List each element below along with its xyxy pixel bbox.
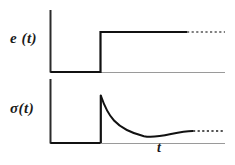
figure-container: e (t) σ(t) t (0, 0, 235, 165)
time-axis-label: t (157, 140, 161, 156)
strain-panel (50, 10, 225, 73)
stress-relaxation-curve (101, 96, 193, 137)
step-response-plot (0, 0, 235, 165)
stress-axis-label: σ(t) (10, 100, 34, 117)
stress-panel (50, 79, 225, 144)
strain-axis-label: e (t) (10, 30, 37, 47)
strain-step-curve (51, 32, 188, 72)
